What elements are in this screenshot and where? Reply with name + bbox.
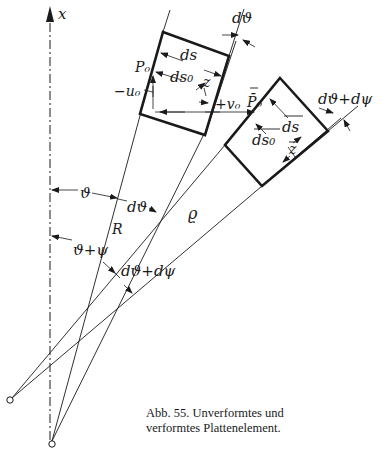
plate-element-diagram: x xyxy=(0,0,389,460)
label-R: R xyxy=(111,221,123,237)
label-d-theta-top: dϑ xyxy=(232,9,253,27)
label-P0: P₀ xyxy=(134,59,150,75)
label-ds: ds xyxy=(180,46,198,64)
label-z-bar: z xyxy=(288,141,297,157)
label-z: z xyxy=(202,74,211,90)
label-ds0: ds₀ xyxy=(170,68,193,86)
caption-line-2: verformtes Plattenelement. xyxy=(146,421,386,436)
label-plus-v0: +v₀ xyxy=(215,96,241,112)
label-d-theta-psi-mid: dϑ+dψ xyxy=(121,262,175,280)
deformed-element xyxy=(225,78,328,186)
x-axis: x xyxy=(46,5,67,440)
center-undeformed xyxy=(49,441,55,447)
label-d-theta-mid: dϑ xyxy=(127,198,148,216)
label-theta-plus-psi: ϑ+ψ xyxy=(73,241,108,259)
d-theta-top-arrows xyxy=(222,35,255,47)
x-axis-arrow-icon xyxy=(46,6,54,22)
x-axis-label: x xyxy=(58,5,67,23)
figure-caption: Abb. 55. Unverformtes und verformtes Pla… xyxy=(146,406,386,436)
label-ds0-bar: ds₀ xyxy=(252,131,275,149)
caption-line-1: Abb. 55. Unverformtes und xyxy=(146,406,386,421)
label-ds-bar: ds xyxy=(282,118,300,136)
label-d-theta-psi-top: dϑ+dψ xyxy=(318,90,372,108)
label-rho: ϱ xyxy=(188,204,198,223)
label-P0-bar: P̄₀ xyxy=(246,93,262,110)
label-theta: ϑ xyxy=(80,184,91,202)
label-minus-u0: −u₀ xyxy=(114,83,141,99)
